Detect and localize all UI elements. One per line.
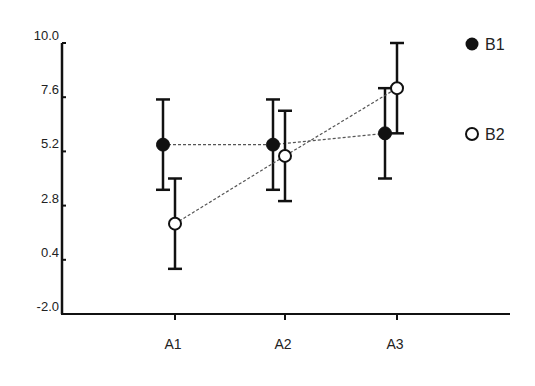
y-tick-label: 0.4 (41, 245, 59, 260)
legend: B1B2 (466, 36, 505, 143)
data-point-filled-circle (379, 127, 392, 140)
legend-item-b1: B1 (466, 36, 505, 53)
data-point-open-circle (279, 150, 291, 162)
y-tick-label: 10.0 (34, 28, 59, 43)
legend-open-circle-icon (466, 128, 478, 140)
legend-item-b2: B2 (466, 126, 505, 143)
x-category-label: A2 (274, 336, 291, 352)
data-point-filled-circle (157, 138, 170, 151)
legend-label: B2 (485, 126, 505, 143)
y-tick-label: -2.0 (37, 299, 59, 314)
series-b2 (168, 43, 404, 269)
legend-filled-circle-icon (466, 38, 479, 51)
legend-label: B1 (485, 36, 505, 53)
y-tick-label: 7.6 (41, 82, 59, 97)
series-b1 (156, 88, 392, 190)
x-category-label: A3 (386, 336, 403, 352)
data-point-filled-circle (267, 138, 280, 151)
data-point-open-circle (391, 82, 403, 94)
y-tick-label: 5.2 (41, 136, 59, 151)
x-category-label: A1 (164, 336, 181, 352)
data-point-open-circle (169, 218, 181, 230)
plot-area (156, 43, 404, 269)
error-bar-line-chart: 10.07.65.22.80.4-2.0A1A2A3 B1B2 (0, 0, 535, 386)
y-tick-label: 2.8 (41, 191, 59, 206)
